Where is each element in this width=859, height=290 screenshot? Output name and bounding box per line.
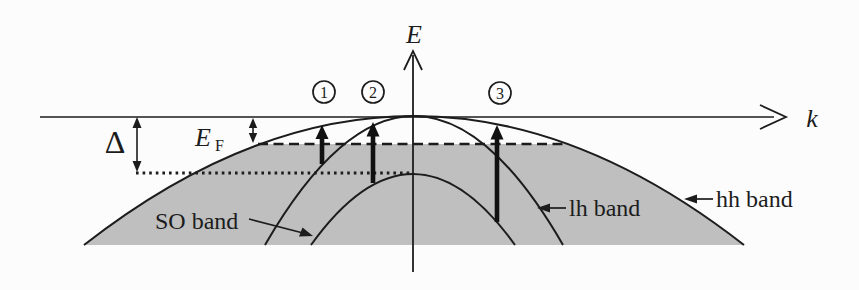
band-diagram-canvas: 1 2 3 E k Δ E F SO band lh band hh band	[0, 0, 859, 290]
transition-number-2: 2	[362, 81, 384, 103]
svg-text:E: E	[194, 123, 211, 152]
e-axis-label: E	[405, 20, 422, 49]
so-band-label: SO band	[155, 208, 238, 234]
transition-number-3-label: 3	[496, 85, 504, 102]
transition-number-2-label: 2	[369, 84, 377, 101]
delta-label: Δ	[105, 124, 126, 160]
transition-number-1: 1	[313, 81, 335, 103]
fermi-energy-subscript: F	[215, 137, 224, 154]
hh-band-label: hh band	[716, 186, 793, 212]
hh-band-pointer-icon	[684, 195, 713, 204]
band-diagram: 1 2 3 E k Δ E F SO band lh band hh band	[0, 0, 859, 290]
k-axis-label: k	[806, 104, 818, 133]
transition-number-1-label: 1	[320, 84, 328, 101]
delta-measure-arrow	[133, 117, 142, 172]
lh-band-label: lh band	[569, 195, 640, 221]
transition-number-3: 3	[489, 82, 511, 104]
hh-band-annotation: hh band	[684, 186, 793, 212]
